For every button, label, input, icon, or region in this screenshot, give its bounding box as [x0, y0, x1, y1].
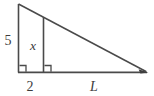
right-angle-mark-left-icon: [20, 66, 27, 72]
hypotenuse-line: [19, 4, 147, 72]
label-far-base: L: [89, 79, 98, 94]
figure-canvas: 5 x 2 L: [0, 0, 154, 96]
label-inner-height: x: [29, 38, 36, 53]
label-left-side: 5: [5, 33, 12, 48]
label-near-base: 2: [27, 79, 34, 94]
right-angle-mark-inner-icon: [45, 66, 52, 72]
outer-triangle: [18, 4, 147, 73]
geometry-figure: 5 x 2 L: [0, 0, 154, 96]
